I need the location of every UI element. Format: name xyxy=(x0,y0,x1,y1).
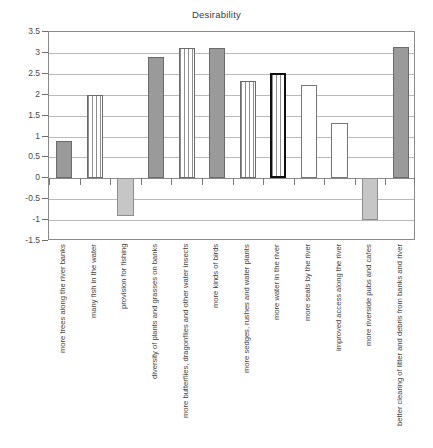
x-axis-tick-mark xyxy=(202,178,203,185)
zero-line xyxy=(49,178,414,179)
gridline xyxy=(49,157,414,158)
gridline xyxy=(49,220,414,221)
bar xyxy=(331,123,347,179)
chart-container: Desirability 3.532.521.510.50-0.5-1-1.5 … xyxy=(0,0,433,448)
x-axis-tick-mark xyxy=(110,178,111,185)
bar xyxy=(393,47,409,179)
plot-area xyxy=(48,31,415,240)
gridline xyxy=(49,199,414,200)
gridline xyxy=(49,116,414,117)
bar xyxy=(87,95,103,179)
x-axis-category-label: many fish in the water xyxy=(89,244,98,444)
x-axis-tick-mark xyxy=(324,178,325,185)
gridline xyxy=(49,74,414,75)
bar xyxy=(270,73,286,179)
x-axis-category-label: more seats by the river xyxy=(303,244,312,444)
y-axis-tick-label: -0.5 xyxy=(25,193,40,203)
bar xyxy=(148,57,164,178)
x-axis-tick-mark xyxy=(355,178,356,185)
x-axis-tick-mark xyxy=(385,178,386,185)
y-axis-tick-label: 0.5 xyxy=(28,151,40,161)
x-axis-tick-mark xyxy=(414,178,415,185)
y-axis-tick-mark xyxy=(42,240,48,241)
x-axis-category-label: more trees along the river banks xyxy=(58,244,67,444)
x-axis-category-label: more riverside pubs and cafes xyxy=(364,244,373,444)
gridline xyxy=(49,53,414,54)
x-axis-tick-mark xyxy=(294,178,295,185)
bar xyxy=(56,141,72,179)
bar xyxy=(240,81,256,178)
x-axis-tick-mark xyxy=(141,178,142,185)
y-axis-tick-label: 2.5 xyxy=(28,68,40,78)
x-axis-tick-mark xyxy=(171,178,172,185)
y-axis-tick-label: -1.5 xyxy=(25,235,40,245)
y-axis: 3.532.521.510.50-0.5-1-1.5 xyxy=(0,31,48,240)
x-axis-category-label: diversity of plants and grasses on banks xyxy=(150,244,159,444)
bar xyxy=(301,85,317,179)
gridline xyxy=(49,95,414,96)
chart-title: Desirability xyxy=(0,9,433,20)
x-axis-category-label: more kinds of birds xyxy=(211,244,220,444)
x-axis-tick-mark xyxy=(80,178,81,185)
bar xyxy=(209,48,225,178)
x-axis-category-label: better clearing of litter and debris fro… xyxy=(395,244,404,444)
x-axis-tick-mark xyxy=(233,178,234,185)
x-axis-tick-mark xyxy=(263,178,264,185)
y-axis-tick-label: 1 xyxy=(35,131,40,141)
y-axis-tick-label: -1 xyxy=(32,214,40,224)
y-axis-tick-label: 3.5 xyxy=(28,26,40,36)
bar xyxy=(362,178,378,220)
x-axis-category-label: more butterflies, dragonflies and other … xyxy=(181,244,190,444)
x-axis-category-label: provision for fishing xyxy=(119,244,128,444)
y-axis-tick-label: 1.5 xyxy=(28,110,40,120)
y-axis-tick-label: 2 xyxy=(35,89,40,99)
x-axis-category-label: more sedges, rushes and water plants xyxy=(242,244,251,444)
y-axis-tick-label: 3 xyxy=(35,47,40,57)
x-axis-category-labels: more trees along the river banksmany fis… xyxy=(48,244,415,448)
x-axis-category-label: improved access along the river xyxy=(334,244,343,444)
y-axis-tick-label: 0 xyxy=(35,172,40,182)
x-axis-tick-mark xyxy=(49,178,50,185)
bar xyxy=(179,48,195,178)
bar xyxy=(117,178,133,216)
x-axis-category-label: more water in the river xyxy=(272,244,281,444)
gridline xyxy=(49,137,414,138)
